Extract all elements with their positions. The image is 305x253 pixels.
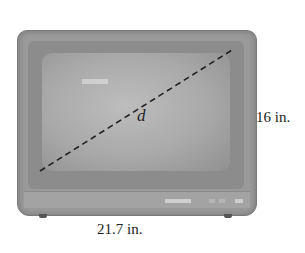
- diagonal-dashed-line: [0, 0, 305, 253]
- width-label: 21.7 in.: [97, 221, 142, 238]
- height-label: 16 in.: [256, 109, 290, 126]
- diagonal-label: d: [137, 106, 146, 126]
